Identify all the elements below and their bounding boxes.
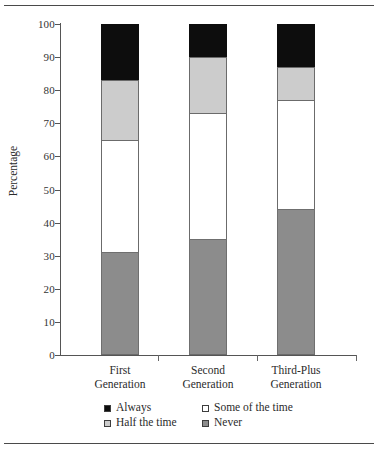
bar-segment-always[interactable] [101, 24, 139, 80]
y-tick-label: 80 [44, 85, 55, 96]
bar-segment-always[interactable] [189, 24, 227, 57]
x-axis-label-third-plus-generation: Third-Plus Generation [241, 363, 351, 391]
legend-item-always[interactable]: Always [104, 400, 202, 415]
legend-label: Some of the time [214, 400, 293, 415]
y-tick-label: 50 [44, 184, 55, 195]
bar-segment-half-the-time[interactable] [101, 80, 139, 140]
legend-item-half-the-time[interactable]: Half the time [104, 415, 202, 430]
y-tick-label: 30 [44, 250, 55, 261]
legend-label: Never [214, 415, 242, 430]
x-tick-mark [158, 355, 159, 361]
plot-area [60, 24, 356, 355]
stacked-bar-third-plus-generation[interactable] [277, 24, 315, 355]
figure-bottom-rule [4, 443, 374, 444]
y-tick-label: 90 [44, 52, 55, 63]
legend-swatch-icon [202, 420, 209, 427]
y-tick-label: 100 [38, 19, 55, 30]
legend-row: Always Some of the time [104, 400, 344, 415]
y-tick-label: 10 [44, 316, 55, 327]
stacked-bar-first-generation[interactable] [101, 24, 139, 355]
x-axis-line [60, 355, 357, 356]
x-tick-mark [257, 355, 258, 361]
bar-segment-never[interactable] [277, 209, 315, 355]
legend-swatch-icon [104, 420, 111, 427]
figure-top-rule [4, 5, 374, 6]
y-tick-label: 40 [44, 217, 55, 228]
x-axis-label-line1: Third-Plus [241, 363, 351, 377]
bar-segment-some-of-the-time[interactable] [189, 113, 227, 239]
legend-label: Half the time [116, 415, 177, 430]
bar-segment-some-of-the-time[interactable] [101, 140, 139, 253]
bar-segment-half-the-time[interactable] [277, 67, 315, 100]
legend-swatch-icon [104, 405, 111, 412]
chart-legend: Always Some of the time Half the time Ne… [104, 400, 344, 430]
bar-segment-always[interactable] [277, 24, 315, 67]
y-tick-label: 70 [44, 118, 55, 129]
legend-row: Half the time Never [104, 415, 344, 430]
y-axis-tick-labels: 100 90 80 70 60 50 40 30 20 10 0 [24, 0, 55, 450]
y-tick-label: 60 [44, 151, 55, 162]
bar-segment-some-of-the-time[interactable] [277, 100, 315, 209]
y-tick-label: 20 [44, 283, 55, 294]
bar-segment-never[interactable] [101, 252, 139, 355]
legend-item-some-of-the-time[interactable]: Some of the time [202, 400, 293, 415]
figure-chart: Percentage 100 90 80 70 60 50 40 30 20 1… [0, 0, 378, 450]
legend-label: Always [116, 400, 151, 415]
y-axis-title: Percentage [7, 111, 19, 231]
legend-item-never[interactable]: Never [202, 415, 242, 430]
bar-segment-half-the-time[interactable] [189, 57, 227, 113]
bar-segment-never[interactable] [189, 239, 227, 355]
x-axis-label-line2: Generation [241, 377, 351, 391]
stacked-bar-second-generation[interactable] [189, 24, 227, 355]
legend-swatch-icon [202, 405, 209, 412]
x-tick-mark [356, 355, 357, 361]
